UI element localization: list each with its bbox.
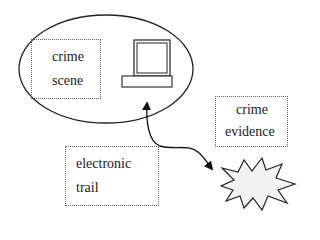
crime-scene-label-line1: crime	[52, 49, 84, 65]
electronic-trail-label-line2: trail	[76, 180, 99, 196]
computer-icon	[122, 40, 172, 87]
crime-evidence-label-line1: crime	[236, 102, 268, 118]
electronic-trail-box: electronic trail	[65, 146, 159, 206]
crime-scene-box: crime scene	[31, 39, 101, 99]
starburst-icon	[221, 158, 295, 210]
crime-evidence-label-line2: evidence	[225, 124, 275, 140]
crime-evidence-box: crime evidence	[215, 96, 288, 147]
crime-scene-label-line2: scene	[52, 73, 83, 89]
electronic-trail-label-line1: electronic	[76, 156, 131, 172]
